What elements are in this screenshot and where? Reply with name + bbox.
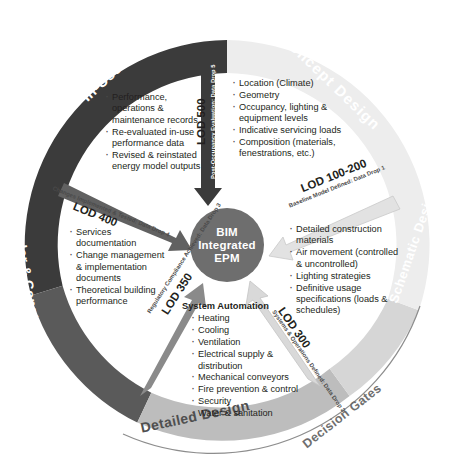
list-item: Mechanical conveyors xyxy=(190,372,312,383)
hub-label: BIM Integrated EPM xyxy=(190,208,264,282)
list-item: Location (Climate) xyxy=(231,78,343,89)
hub-line-3: EPM xyxy=(214,252,240,264)
list-item: Performance, operations & maintenance re… xyxy=(104,92,204,126)
hub-line-1: BIM xyxy=(216,226,238,238)
hub-line-2: Integrated xyxy=(198,239,256,251)
content-block-in-use: Performance, operations & maintenance re… xyxy=(104,92,204,173)
list-item: Fire prevention & control xyxy=(190,384,312,395)
content-block-detailed-design: System Automation Heating Cooling Ventil… xyxy=(182,301,312,420)
block-heading: System Automation xyxy=(182,301,312,312)
list-item: Water & sanitation xyxy=(190,408,312,419)
content-block-concept-design: Location (Climate) Geometry Occupancy, l… xyxy=(231,78,343,160)
list-item: Cooling xyxy=(190,325,312,336)
list-item: Theoretical building performance xyxy=(68,285,172,308)
list-item: Electrical supply & distribution xyxy=(190,349,312,372)
list-item: Security xyxy=(190,396,312,407)
list-item: Change management & implementation docum… xyxy=(68,250,172,284)
drop-caption-5: Post-Occupancy Evaluation: Data Drop 5 xyxy=(210,64,216,179)
list-item: Revised & reinstated energy model output… xyxy=(104,150,204,173)
list-item: Lighting strategies xyxy=(288,271,400,282)
list-item: Detailed construction materials xyxy=(288,224,400,247)
list-item: Geometry xyxy=(231,90,343,101)
list-item: Composition (materials, fenestrations, e… xyxy=(231,137,343,160)
list-item: Heating xyxy=(190,313,312,324)
content-block-tender-construction: Services documentation Change management… xyxy=(68,227,172,308)
list-item: Services documentation xyxy=(68,227,172,250)
list-item: Indicative servicing loads xyxy=(231,125,343,136)
diagram-canvas: BIM Integrated EPM In-Use Concept Design… xyxy=(0,0,451,475)
list-item: Ventilation xyxy=(190,337,312,348)
list-item: Occupancy, lighting & equipment levels xyxy=(231,102,343,125)
list-item: Re-evaluated in-use performance data xyxy=(104,127,204,150)
list-item: Air movement (controlled & uncontrolled) xyxy=(288,247,400,270)
